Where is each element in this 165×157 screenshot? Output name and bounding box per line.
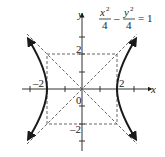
eq-rhs: = 1 — [138, 12, 152, 24]
tick-label-y-pos2: 2 — [76, 43, 82, 55]
tick-label-x-neg2: –2 — [32, 77, 44, 89]
tick-label-x-pos2: 2 — [119, 77, 125, 89]
eq-num1: x — [99, 6, 105, 18]
tick-label-y-neg2: –2 — [69, 123, 81, 135]
eq-den2: 4 — [126, 19, 132, 31]
eq-den1: 4 — [102, 19, 108, 31]
x-axis-label: x — [150, 83, 156, 95]
eq-minus: – — [113, 12, 120, 24]
eq-num2: y — [123, 6, 129, 18]
y-axis-label: y — [77, 8, 83, 20]
eq-exp1: 2 — [106, 5, 110, 13]
eq-exp2: 2 — [130, 5, 134, 13]
origin-label: 0 — [76, 94, 82, 106]
equation: x 2 4 – y 2 4 = 1 — [99, 5, 152, 31]
hyperbola-diagram: x y 0 –2 2 2 –2 x 2 4 – y 2 4 = 1 — [0, 0, 165, 157]
